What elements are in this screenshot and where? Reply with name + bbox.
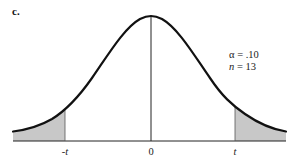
alpha-equals: =	[237, 49, 243, 60]
t-distribution-plot	[0, 0, 291, 167]
tick-label-t: t	[234, 146, 237, 157]
alpha-symbol: α	[229, 49, 235, 60]
alpha-value: .10	[246, 49, 259, 60]
alpha-annotation: α = .10	[229, 49, 259, 60]
n-annotation: n = 13	[229, 61, 256, 72]
n-equals: =	[237, 61, 243, 72]
density-curve	[13, 16, 286, 132]
panel-label: c.	[12, 5, 20, 17]
t-distribution-figure: c. α = .10 n = 13 -t 0 t	[0, 0, 291, 167]
n-value: 13	[245, 61, 256, 72]
tick-label-neg-t: -t	[62, 146, 68, 157]
n-symbol: n	[229, 61, 234, 72]
tick-label-zero: 0	[148, 146, 153, 157]
